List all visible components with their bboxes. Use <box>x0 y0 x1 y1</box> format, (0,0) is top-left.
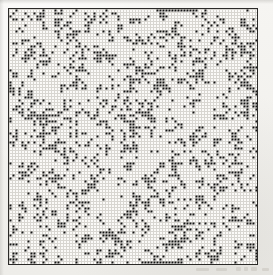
lattice-frame <box>8 8 258 265</box>
lattice-grid <box>9 9 257 264</box>
caption-smudge-f <box>262 268 269 271</box>
caption-smudge-c <box>236 267 241 271</box>
page-edge-shadow-left <box>0 0 4 275</box>
figure-root <box>0 0 273 275</box>
caption-smudge-a <box>196 268 209 271</box>
page-edge-shadow-top <box>0 0 273 4</box>
caption-smudge-d <box>244 267 248 271</box>
caption-smudge-b <box>216 268 227 271</box>
caption-smudge-e <box>251 267 257 271</box>
